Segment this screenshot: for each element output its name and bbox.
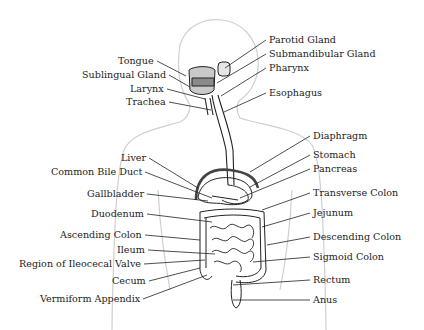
large-intestine	[200, 209, 266, 308]
label-submandibular-gland: Submandibular Gland	[269, 48, 376, 59]
leader-ileum	[148, 250, 215, 254]
label-rectum: Rectum	[313, 274, 350, 285]
leader-ascending-colon	[145, 235, 200, 240]
label-parotid-gland: Parotid Gland	[269, 34, 336, 45]
label-transverse-colon: Transverse Colon	[313, 187, 398, 198]
label-cecum: Cecum	[112, 275, 146, 286]
label-esophagus: Esophagus	[269, 87, 322, 98]
label-ascending-colon: Ascending Colon	[60, 229, 142, 240]
leader-stomach	[250, 155, 310, 187]
label-sublingual-gland: Sublingual Gland	[82, 69, 166, 80]
label-descending-colon: Descending Colon	[313, 231, 401, 242]
label-ileum: Ileum	[117, 244, 145, 255]
label-sigmoid-colon: Sigmoid Colon	[313, 251, 384, 262]
leader-cecum	[149, 268, 200, 281]
label-liver: Liver	[121, 152, 146, 163]
label-larynx: Larynx	[130, 83, 164, 94]
label-tongue: Tongue	[118, 55, 154, 66]
label-pancreas: Pancreas	[313, 163, 357, 174]
leader-liver	[149, 158, 198, 188]
leader-transverse-colon	[262, 193, 310, 210]
leader-sigmoid-colon	[253, 257, 310, 262]
leader-duodenum	[147, 214, 212, 222]
label-diaphragm: Diaphragm	[313, 130, 367, 141]
small-intestine	[210, 224, 254, 272]
label-duodenum: Duodenum	[91, 208, 144, 219]
leader-jejunum	[262, 213, 310, 227]
leader-vermiform-appendix	[143, 275, 207, 299]
label-region-of-ileocecal-valve: Region of Ileocecal Valve	[19, 258, 141, 269]
label-anus: Anus	[313, 294, 337, 305]
label-pharynx: Pharynx	[269, 62, 309, 73]
leader-diaphragm	[250, 136, 310, 172]
leader-region-of-ileocecal-valve	[144, 260, 205, 264]
label-gallbladder: Gallbladder	[87, 188, 144, 199]
label-vermiform-appendix: Vermiform Appendix	[40, 293, 140, 304]
leader-parotid-gland	[225, 40, 266, 68]
label-stomach: Stomach	[313, 149, 356, 160]
mouth-region	[189, 62, 230, 95]
label-jejunum: Jejunum	[313, 207, 353, 218]
label-trachea: Trachea	[126, 96, 166, 107]
label-common-bile-duct: Common Bile Duct	[51, 166, 142, 177]
digestive-system-diagram: TongueSublingual GlandLarynxTracheaLiver…	[0, 0, 424, 330]
